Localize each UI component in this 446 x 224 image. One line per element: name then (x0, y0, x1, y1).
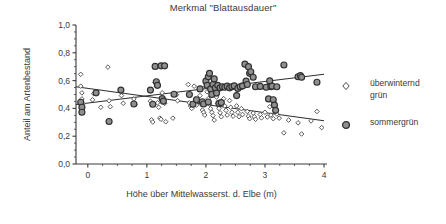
data-point-ueberwinternd-gruen (121, 101, 126, 106)
data-point-sommergruen (93, 90, 99, 96)
x-tick-label: 4 (322, 170, 327, 180)
y-tick-label: 1,0 (58, 20, 70, 30)
axis-label-layer: 0,00,20,40,60,81,001234Höhe über Mittelw… (22, 20, 327, 199)
y-tick-label: 0,4 (58, 103, 70, 113)
data-point-ueberwinternd-gruen (319, 125, 324, 130)
legend-item-sommergruen[interactable]: sommergrün (336, 117, 446, 132)
data-point-ueberwinternd-gruen (106, 65, 111, 70)
data-point-sommergruen (79, 109, 85, 115)
x-tick-label: 1 (145, 170, 150, 180)
data-point-ueberwinternd-gruen (263, 110, 268, 115)
data-point-ueberwinternd-gruen (163, 119, 168, 124)
data-point-ueberwinternd-gruen (236, 110, 241, 115)
x-tick-label: 2 (204, 170, 209, 180)
data-point-sommergruen (244, 81, 250, 87)
data-point-ueberwinternd-gruen (108, 104, 113, 109)
y-tick-label: 0,8 (58, 48, 70, 58)
data-point-sommergruen (250, 74, 256, 80)
data-point-sommergruen (150, 101, 156, 107)
data-point-ueberwinternd-gruen (192, 84, 197, 89)
x-tick-label: 0 (85, 170, 90, 180)
data-point-sommergruen (257, 83, 263, 89)
data-point-sommergruen (314, 79, 320, 85)
data-point-sommergruen (171, 91, 177, 97)
data-point-ueberwinternd-gruen (175, 98, 180, 103)
legend-label-line1: überwinternd (370, 78, 420, 88)
open-diamond-icon (340, 80, 352, 92)
data-point-sommergruen (281, 62, 287, 68)
x-tick-label: 3 (263, 170, 268, 180)
legend-label-line2: grün (370, 90, 387, 100)
data-point-sommergruen (106, 118, 112, 124)
data-point-sommergruen (206, 70, 212, 76)
data-point-sommergruen (162, 63, 168, 69)
y-tick-label: 0,0 (58, 159, 70, 169)
data-point-ueberwinternd-gruen (286, 118, 291, 123)
data-point-ueberwinternd-gruen (239, 106, 244, 111)
data-point-ueberwinternd-gruen (299, 132, 304, 137)
chart-legend: überwinternd grün sommergrün (336, 78, 446, 148)
data-point-sommergruen (118, 87, 124, 93)
data-point-sommergruen (273, 107, 279, 113)
data-point-ueberwinternd-gruen (234, 104, 239, 109)
data-point-sommergruen (234, 93, 240, 99)
data-point-ueberwinternd-gruen (212, 118, 217, 123)
data-point-sommergruen (131, 101, 137, 107)
data-point-ueberwinternd-gruen (156, 105, 161, 110)
data-point-ueberwinternd-gruen (315, 109, 320, 114)
legend-label-sommergruen: sommergrün (370, 117, 446, 129)
y-tick-label: 0,2 (58, 131, 70, 141)
y-axis-title: Anteil am Artenbestand (22, 48, 32, 141)
filled-circle-icon (340, 119, 352, 131)
data-point-ueberwinternd-gruen (282, 131, 287, 136)
data-point-sommergruen (274, 84, 280, 90)
data-point-ueberwinternd-gruen (107, 98, 112, 103)
data-point-ueberwinternd-gruen (227, 98, 232, 103)
data-point-ueberwinternd-gruen (296, 121, 301, 126)
data-point-sommergruen (152, 63, 158, 69)
data-point-sommergruen (211, 76, 217, 82)
data-point-ueberwinternd-gruen (119, 93, 124, 98)
data-point-ueberwinternd-gruen (90, 97, 95, 102)
data-point-ueberwinternd-gruen (78, 72, 83, 77)
data-point-sommergruen (193, 97, 199, 103)
data-point-ueberwinternd-gruen (277, 116, 282, 121)
legend-label-ueberwinternd-gruen: überwinternd grün (370, 78, 446, 101)
data-point-sommergruen (218, 100, 224, 106)
data-point-sommergruen (147, 87, 153, 93)
data-point-sommergruen (155, 82, 161, 88)
data-point-sommergruen (299, 74, 305, 80)
data-point-ueberwinternd-gruen (186, 82, 191, 87)
data-point-ueberwinternd-gruen (224, 108, 229, 113)
legend-item-ueberwinternd-gruen[interactable]: überwinternd grün (336, 78, 446, 101)
data-point-ueberwinternd-gruen (225, 113, 230, 118)
data-point-sommergruen (160, 98, 166, 104)
chart-figure: Merkmal "Blattausdauer" 0,00,20,40,60,81… (0, 0, 446, 224)
data-point-ueberwinternd-gruen (228, 105, 233, 110)
data-point-ueberwinternd-gruen (99, 105, 104, 110)
data-point-sommergruen (205, 99, 211, 105)
data-point-ueberwinternd-gruen (80, 91, 85, 96)
x-axis-title: Höhe über Mittelwasserst. d. Elbe (m) (126, 189, 277, 199)
data-point-ueberwinternd-gruen (171, 116, 176, 121)
data-points-layer (78, 61, 324, 136)
data-point-sommergruen (186, 92, 192, 98)
y-tick-label: 0,6 (58, 76, 70, 86)
data-point-sommergruen (197, 86, 203, 92)
